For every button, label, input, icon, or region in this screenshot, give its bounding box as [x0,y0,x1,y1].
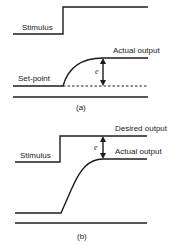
caption-a: (a) [76,103,86,112]
feedback-diagram: Stimulus Actual output Set-point e (a) S… [0,0,176,245]
caption-b: (b) [77,232,87,241]
stimulus-label-b: Stimulus [20,151,51,160]
error-label-a: e [95,67,99,76]
actual-output-label-b: Actual output [115,147,162,156]
actual-output-label-a: Actual output [113,46,160,55]
stimulus-label-a: Stimulus [22,23,53,32]
desired-output-label: Desired output [115,124,168,133]
actual-output-curve-b [15,159,147,213]
set-point-label: Set-point [18,74,51,83]
panel-a: Stimulus Actual output Set-point e (a) [13,7,160,112]
panel-b: Stimulus Desired output Actual output e … [15,124,168,241]
error-label-b: e [94,143,98,152]
